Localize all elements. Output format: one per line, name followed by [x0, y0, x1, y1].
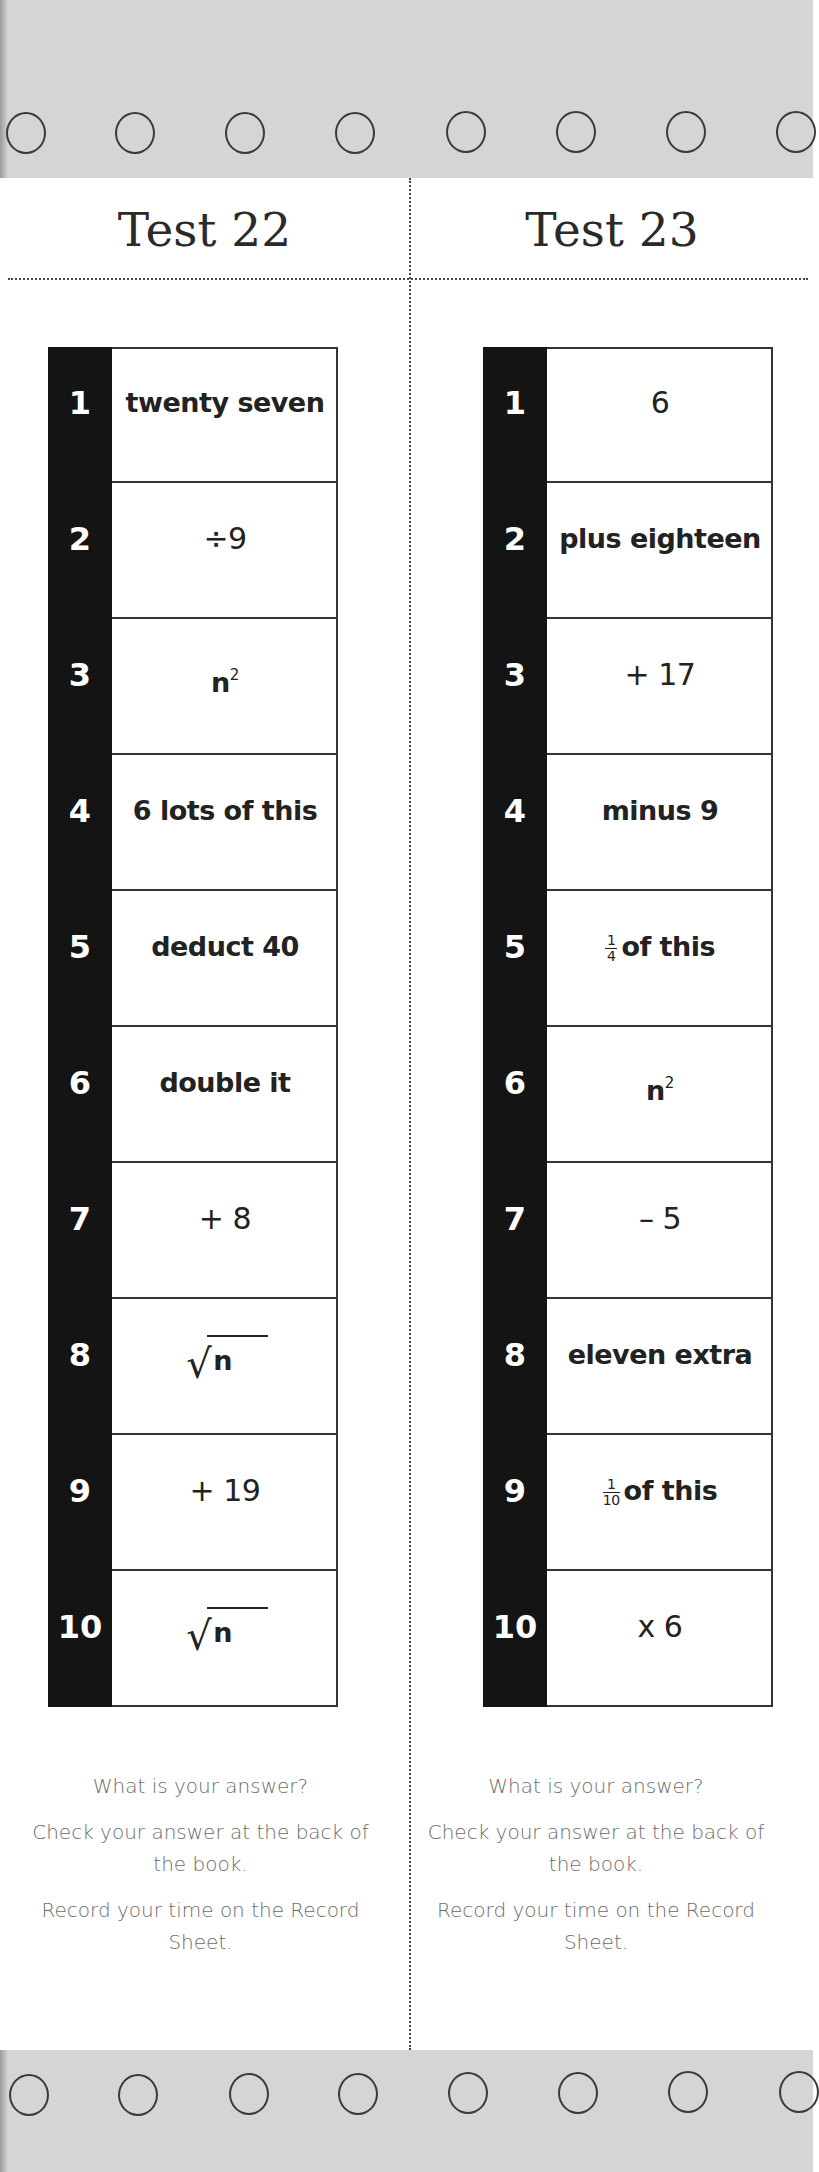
fraction-label: of this: [621, 931, 715, 962]
step-cell: deduct 40: [112, 891, 338, 1027]
step-text: + 8: [112, 1199, 338, 1239]
step-row: 4 6 lots of this: [48, 755, 338, 891]
bottom-binder-strip: [0, 2050, 813, 2172]
power-base: n: [211, 667, 230, 698]
step-cell: ÷9: [112, 483, 338, 619]
step-number: 1: [483, 383, 547, 423]
step-cell: 14of this: [547, 891, 773, 1027]
power-base: n: [646, 1075, 665, 1106]
step-number: 1: [48, 383, 112, 423]
fraction-label: of this: [624, 1475, 718, 1506]
step-text: – 5: [547, 1199, 773, 1239]
step-number: 7: [483, 1199, 547, 1239]
step-number: 2: [48, 519, 112, 559]
step-row: 3 + 17: [483, 619, 773, 755]
instruction-answer: What is your answer?: [425, 1770, 767, 1802]
instruction-check: Check your answer at the back of the boo…: [30, 1816, 371, 1880]
test-title: Test 23: [411, 200, 813, 260]
step-number: 4: [48, 791, 112, 831]
step-number: 9: [483, 1471, 547, 1511]
step-cell: plus eighteen: [547, 483, 773, 619]
step-number: 2: [483, 519, 547, 559]
step-cell: minus 9: [547, 755, 773, 891]
step-text: minus 9: [547, 791, 773, 831]
step-number: 9: [48, 1471, 112, 1511]
instruction-record: Record your time on the Record Sheet.: [30, 1894, 371, 1958]
test-22-column: Test 22 1 twenty seven 2 ÷9 3 n2 4 6 lot…: [0, 178, 409, 2050]
binder-hole-icon: [229, 2073, 269, 2115]
fraction: 110: [603, 1477, 620, 1508]
binder-hole-icon: [666, 111, 706, 153]
steps-table: 1 twenty seven 2 ÷9 3 n2 4 6 lots of thi…: [48, 347, 338, 1707]
step-cell: x 6: [547, 1571, 773, 1707]
step-cell: √n: [112, 1571, 338, 1707]
step-cell: √n: [112, 1299, 338, 1435]
step-sqrt: √n: [112, 1607, 338, 1656]
step-row: 7 + 8: [48, 1163, 338, 1299]
top-binder-strip: [0, 0, 813, 178]
step-row: 6 double it: [48, 1027, 338, 1163]
test-title: Test 22: [0, 200, 409, 260]
step-number: 10: [48, 1607, 112, 1647]
step-row: 1 6: [483, 347, 773, 483]
step-text: x 6: [547, 1607, 773, 1647]
step-cell: – 5: [547, 1163, 773, 1299]
step-cell: n2: [112, 619, 338, 755]
step-number: 6: [48, 1063, 112, 1103]
step-cell: + 17: [547, 619, 773, 755]
step-text: deduct 40: [112, 927, 338, 967]
step-number: 8: [483, 1335, 547, 1375]
step-number: 5: [483, 927, 547, 967]
step-number: 5: [48, 927, 112, 967]
step-cell: eleven extra: [547, 1299, 773, 1435]
binder-hole-icon: [446, 111, 486, 153]
step-row: 1 twenty seven: [48, 347, 338, 483]
step-number: 6: [483, 1063, 547, 1103]
step-power: n2: [112, 655, 338, 703]
step-number: 4: [483, 791, 547, 831]
step-row: 3 n2: [48, 619, 338, 755]
step-cell: + 19: [112, 1435, 338, 1571]
binder-hole-icon: [558, 2072, 598, 2114]
instructions: What is your answer? Check your answer a…: [30, 1770, 371, 1972]
step-row: 4 minus 9: [483, 755, 773, 891]
step-row: 9 110of this: [483, 1435, 773, 1571]
step-text: + 19: [112, 1471, 338, 1511]
step-fraction: 14of this: [547, 927, 773, 967]
step-fraction: 110of this: [547, 1471, 773, 1511]
step-cell: n2: [547, 1027, 773, 1163]
binder-hole-icon: [556, 111, 596, 153]
step-cell: 110of this: [547, 1435, 773, 1571]
binder-hole-icon: [338, 2073, 378, 2115]
step-row: 8 eleven extra: [483, 1299, 773, 1435]
binder-hole-icon: [115, 112, 155, 154]
step-row: 10 √n: [48, 1571, 338, 1707]
step-row: 7 – 5: [483, 1163, 773, 1299]
step-cell: + 8: [112, 1163, 338, 1299]
step-row: 10 x 6: [483, 1571, 773, 1707]
page-edge-shadow: [0, 0, 8, 178]
step-text: + 17: [547, 655, 773, 695]
instruction-answer: What is your answer?: [30, 1770, 371, 1802]
power-exponent: 2: [230, 666, 239, 684]
instruction-check: Check your answer at the back of the boo…: [425, 1816, 767, 1880]
power-exponent: 2: [665, 1074, 674, 1092]
instruction-record: Record your time on the Record Sheet.: [425, 1894, 767, 1958]
binder-hole-icon: [6, 112, 46, 154]
square-root-icon: √n: [182, 1335, 268, 1384]
step-text: 6: [547, 383, 773, 423]
step-number: 8: [48, 1335, 112, 1375]
binder-hole-icon: [335, 112, 375, 154]
step-text: double it: [112, 1063, 338, 1103]
binder-hole-icon: [668, 2071, 708, 2113]
fraction: 14: [605, 933, 617, 964]
step-number: 7: [48, 1199, 112, 1239]
step-text: plus eighteen: [547, 519, 773, 559]
step-row: 6 n2: [483, 1027, 773, 1163]
binder-hole-icon: [779, 2071, 819, 2113]
step-row: 5 deduct 40: [48, 891, 338, 1027]
step-row: 2 plus eighteen: [483, 483, 773, 619]
step-cell: 6: [547, 347, 773, 483]
step-row: 5 14of this: [483, 891, 773, 1027]
step-row: 2 ÷9: [48, 483, 338, 619]
